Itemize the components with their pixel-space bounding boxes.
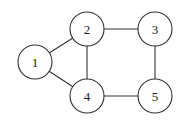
node-label: 2 bbox=[84, 22, 91, 37]
node-label: 1 bbox=[32, 55, 39, 70]
node-label: 5 bbox=[152, 89, 159, 104]
node-2: 2 bbox=[70, 12, 104, 46]
nodes: 1 2 3 4 5 bbox=[18, 12, 172, 113]
graph-diagram: 1 2 3 4 5 bbox=[0, 0, 184, 121]
node-4: 4 bbox=[70, 79, 104, 113]
node-label: 3 bbox=[152, 22, 159, 37]
node-1: 1 bbox=[18, 45, 52, 79]
node-3: 3 bbox=[138, 12, 172, 46]
node-5: 5 bbox=[138, 79, 172, 113]
node-label: 4 bbox=[84, 89, 91, 104]
